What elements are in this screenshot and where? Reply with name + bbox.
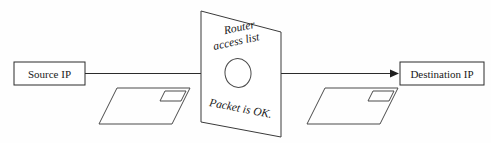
envelope-body xyxy=(307,88,398,124)
packet-left xyxy=(99,88,190,124)
envelope-stamp xyxy=(160,91,186,101)
envelope-body xyxy=(99,88,190,124)
source-ip-node[interactable]: Source IP xyxy=(14,62,85,85)
diagram-root: Source IP Destination IP Router access l… xyxy=(0,0,491,143)
destination-ip-label: Destination IP xyxy=(410,68,473,80)
destination-ip-node[interactable]: Destination IP xyxy=(400,62,484,85)
packet-right xyxy=(307,88,398,124)
diagram-canvas: Source IP Destination IP Router access l… xyxy=(0,0,491,143)
arrowhead-icon xyxy=(390,70,399,78)
source-ip-label: Source IP xyxy=(28,68,71,80)
envelope-stamp xyxy=(368,91,394,101)
